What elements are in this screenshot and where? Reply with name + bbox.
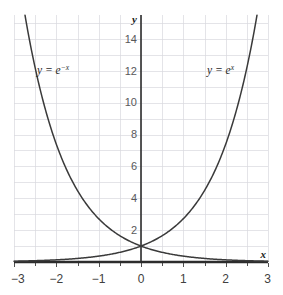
x-axis-label: x bbox=[260, 248, 267, 260]
x-tick-label: −1 bbox=[92, 272, 106, 286]
y-tick-label: 10 bbox=[125, 96, 137, 108]
y-tick-label: 8 bbox=[131, 128, 137, 140]
curve-label-base: y = e bbox=[36, 64, 61, 77]
y-tick-label: 4 bbox=[131, 192, 137, 204]
curve-label-exponential-growth: y = ex bbox=[206, 63, 235, 77]
x-tick-label: −2 bbox=[49, 272, 63, 286]
curve-label-exponent: −x bbox=[61, 63, 70, 72]
chart-canvas: 2468101214 −3−2−10123 y x y = e−x y = ex bbox=[0, 0, 283, 295]
y-tick-label: 6 bbox=[131, 160, 137, 172]
y-tick-label: 2 bbox=[131, 224, 137, 236]
y-tick-label: 14 bbox=[125, 33, 137, 45]
x-tick-label: 3 bbox=[264, 272, 271, 286]
x-tick-label: 2 bbox=[222, 272, 229, 286]
y-tick-label: 12 bbox=[125, 65, 137, 77]
x-tick-label: 0 bbox=[138, 272, 145, 286]
curve-label-base: y = e bbox=[206, 64, 231, 77]
y-axis-label: y bbox=[130, 13, 137, 25]
x-tick-label: 1 bbox=[180, 272, 187, 286]
curve-label-exponent: x bbox=[230, 63, 235, 72]
x-tick-label: −3 bbox=[11, 272, 25, 286]
exponential-functions-chart: 2468101214 −3−2−10123 y x y = e−x y = ex bbox=[0, 0, 283, 295]
